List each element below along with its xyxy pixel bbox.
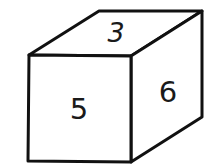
cube-diagram: 3 5 6 xyxy=(0,0,213,168)
front-face-number: 5 xyxy=(70,92,88,126)
top-face-number: 3 xyxy=(107,17,124,48)
right-face-number: 6 xyxy=(159,75,177,109)
